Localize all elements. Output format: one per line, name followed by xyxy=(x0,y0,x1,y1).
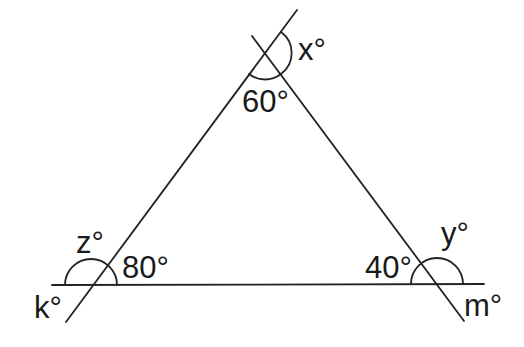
label-y-angle: y° xyxy=(441,216,469,251)
top-interior-arc xyxy=(249,74,281,80)
right-side-line xyxy=(252,36,464,321)
label-right-interior-angle: 40° xyxy=(365,250,412,285)
label-top-interior-angle: 60° xyxy=(242,84,289,119)
top-exterior-arc xyxy=(281,32,292,74)
triangle-angle-diagram: x° 60° z° 80° k° 40° y° m° xyxy=(0,0,524,347)
label-x-angle: x° xyxy=(298,32,326,67)
diagram-svg: x° 60° z° 80° k° 40° y° m° xyxy=(0,0,524,347)
right-semicircle-arc xyxy=(411,258,463,284)
label-left-interior-angle: 80° xyxy=(122,250,169,285)
left-side-line xyxy=(66,10,297,322)
label-k-angle: k° xyxy=(34,290,62,325)
label-z-angle: z° xyxy=(76,225,104,260)
label-m-angle: m° xyxy=(464,288,502,323)
